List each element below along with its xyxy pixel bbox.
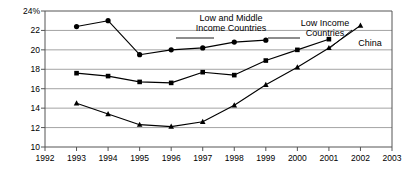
chart-container: 1012141618202224% 1992199319941995199619… — [0, 0, 408, 174]
data-point-marker — [200, 119, 206, 124]
data-point-marker — [231, 102, 237, 107]
data-point-marker — [295, 64, 301, 69]
series-line-2 — [77, 26, 361, 127]
data-point-marker — [295, 48, 300, 53]
data-point-marker — [200, 70, 205, 75]
y-axis-label-24: 24% — [0, 6, 40, 16]
data-point-marker — [264, 58, 269, 63]
series-label-china: China — [350, 38, 390, 48]
data-point-marker — [137, 52, 142, 57]
annotation-text-line: Income Countries — [176, 23, 286, 33]
x-axis-label-1997: 1997 — [188, 153, 218, 163]
data-point-marker — [105, 18, 110, 23]
x-axis-label-1999: 1999 — [251, 153, 281, 163]
x-axis-label-1996: 1996 — [156, 153, 186, 163]
annotation-text-line: Low Income — [286, 18, 364, 28]
annotation-text-line: Countries — [286, 28, 364, 38]
series-label-low-income-countries: Low IncomeCountries — [286, 18, 364, 38]
x-axis-label-1998: 1998 — [219, 153, 249, 163]
data-point-marker — [74, 71, 79, 76]
y-axis-label-22: 22 — [0, 25, 40, 35]
y-axis-label-20: 20 — [0, 45, 40, 55]
x-axis-label-2000: 2000 — [282, 153, 312, 163]
data-point-marker — [169, 47, 174, 52]
y-axis-label-10: 10 — [0, 142, 40, 152]
x-axis-label-2003: 2003 — [377, 153, 407, 163]
x-axis-label-1993: 1993 — [62, 153, 92, 163]
y-axis-label-14: 14 — [0, 103, 40, 113]
data-point-marker — [74, 24, 79, 29]
data-point-marker — [232, 73, 237, 78]
data-point-marker — [232, 39, 237, 44]
data-point-marker — [263, 82, 269, 87]
x-axis-label-2002: 2002 — [345, 153, 375, 163]
x-axis-label-1995: 1995 — [125, 153, 155, 163]
data-point-marker — [74, 100, 80, 105]
data-point-marker — [137, 80, 142, 85]
data-point-marker — [106, 74, 111, 79]
y-axis-label-12: 12 — [0, 123, 40, 133]
data-point-marker — [200, 45, 205, 50]
data-point-marker — [263, 38, 268, 43]
data-point-marker — [169, 81, 174, 86]
x-axis-label-2001: 2001 — [314, 153, 344, 163]
x-axis-label-1994: 1994 — [93, 153, 123, 163]
series-label-low-and-middle-income-countries: Low and MiddleIncome Countries — [176, 13, 286, 33]
y-axis-label-18: 18 — [0, 64, 40, 74]
annotation-text-line: China — [350, 38, 390, 48]
annotation-text-line: Low and Middle — [176, 13, 286, 23]
y-axis-label-16: 16 — [0, 84, 40, 94]
x-axis-label-1992: 1992 — [30, 153, 60, 163]
